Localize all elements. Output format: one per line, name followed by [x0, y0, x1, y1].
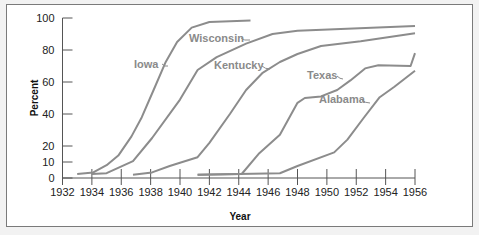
x-tick-label: 1934: [80, 186, 104, 198]
y-ticks: 01020406080100: [36, 12, 72, 184]
y-tick-label: 60: [42, 76, 54, 88]
x-tick-label: 1936: [109, 186, 133, 198]
y-axis-title: Percent: [29, 79, 40, 116]
y-tick-label: 10: [42, 156, 54, 168]
line-chart: 01020406080100 1932193419361938194019421…: [0, 0, 479, 235]
x-tick-label: 1946: [256, 186, 280, 198]
series-label-kentucky: Kentucky: [214, 59, 264, 71]
x-tick-label: 1952: [344, 186, 368, 198]
series-label-iowa: Iowa: [134, 58, 159, 70]
x-tick-label: 1956: [403, 186, 427, 198]
y-tick-label: 40: [42, 108, 54, 120]
series-label-wisconsin: Wisconsin: [189, 32, 244, 44]
x-tick-label: 1940: [168, 186, 192, 198]
y-tick-label: 0: [48, 172, 54, 184]
y-tick-label: 100: [36, 12, 54, 24]
x-tick-label: 1948: [285, 186, 309, 198]
y-tick-label: 20: [42, 140, 54, 152]
series-line-wisconsin: [92, 26, 415, 174]
x-tick-label: 1938: [138, 186, 162, 198]
y-tick-label: 80: [42, 44, 54, 56]
x-tick-label: 1944: [227, 186, 251, 198]
series-labels: IowaWisconsinKentuckyTexasAlabama: [134, 32, 370, 105]
series-label-alabama: Alabama: [319, 93, 366, 105]
label-leader: [337, 76, 343, 79]
x-axis-title: Year: [229, 211, 250, 222]
series-line-alabama: [198, 71, 415, 175]
x-tick-label: 1932: [50, 186, 74, 198]
x-tick-label: 1942: [197, 186, 221, 198]
x-tick-label: 1954: [373, 186, 397, 198]
x-tick-label: 1950: [315, 186, 339, 198]
series-label-texas: Texas: [307, 69, 337, 81]
series-line-kentucky: [133, 33, 415, 175]
